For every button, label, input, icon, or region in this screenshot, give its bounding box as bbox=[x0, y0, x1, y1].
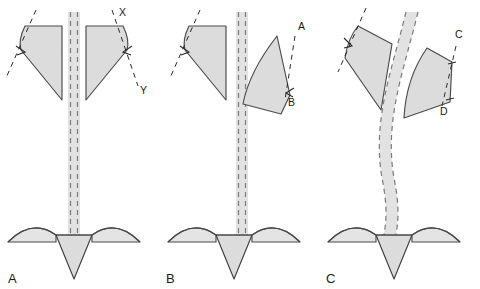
panel-b-central-band bbox=[236, 12, 248, 235]
leaf-shape-left bbox=[184, 26, 226, 100]
panel-label-c: C bbox=[326, 271, 335, 286]
panel-label-b: B bbox=[166, 271, 175, 286]
wing-left bbox=[8, 228, 56, 242]
point-label-y: Y bbox=[140, 84, 147, 96]
point-label-a: A bbox=[298, 20, 305, 32]
point-label-b: B bbox=[288, 96, 295, 108]
band-fill bbox=[68, 12, 80, 235]
band-fill bbox=[236, 12, 248, 235]
leaf-shape-left bbox=[20, 26, 62, 100]
panel-a-base bbox=[8, 228, 140, 279]
leaf-shape-right-rotated bbox=[243, 36, 290, 114]
cone-shape bbox=[56, 235, 92, 279]
cone-shape bbox=[376, 235, 412, 279]
panel-label-a: A bbox=[8, 271, 17, 286]
cone-shape bbox=[216, 235, 252, 279]
panel-c-base bbox=[328, 228, 460, 279]
wing-left bbox=[168, 228, 216, 242]
panel-c-left-segment bbox=[338, 8, 392, 110]
panel-b-left-segment bbox=[170, 10, 226, 100]
panel-c: C C D bbox=[326, 8, 463, 286]
panel-b: B A B bbox=[166, 10, 305, 286]
panel-a-left-segment bbox=[6, 10, 62, 100]
panel-c-right-segment bbox=[404, 46, 456, 118]
point-label-x: X bbox=[119, 6, 126, 18]
wing-right bbox=[412, 228, 460, 242]
panel-b-base bbox=[168, 228, 300, 279]
panel-a-right-segment bbox=[86, 10, 138, 100]
wing-right bbox=[252, 228, 300, 242]
wing-right bbox=[92, 228, 140, 242]
figure-root: A X Y B A B bbox=[0, 0, 480, 289]
diagram-canvas: A X Y B A B bbox=[0, 0, 480, 289]
point-label-c: C bbox=[455, 28, 463, 40]
panel-a-central-band bbox=[68, 12, 80, 235]
point-label-d: D bbox=[440, 105, 448, 117]
panel-a: A X Y bbox=[6, 6, 147, 286]
wing-left bbox=[328, 228, 376, 242]
